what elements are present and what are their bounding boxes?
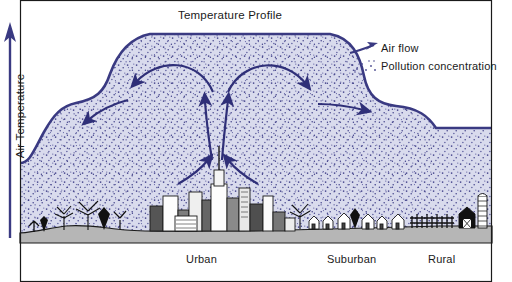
- diagram-canvas: [0, 0, 512, 282]
- legend-item-pollution-label: Pollution concentration: [381, 60, 497, 72]
- zone-label-rural: Rural: [428, 253, 455, 265]
- fence: [410, 214, 454, 228]
- legend-item-air-flow-label: Air flow: [381, 42, 419, 54]
- heat-island-diagram: Temperature Profile Air Temperature Air …: [0, 0, 512, 282]
- zone-label-urban: Urban: [186, 253, 217, 265]
- axis-label: Air Temperature: [14, 68, 26, 164]
- page-title: Temperature Profile: [178, 9, 282, 21]
- zone-label-suburban: Suburban: [327, 253, 376, 265]
